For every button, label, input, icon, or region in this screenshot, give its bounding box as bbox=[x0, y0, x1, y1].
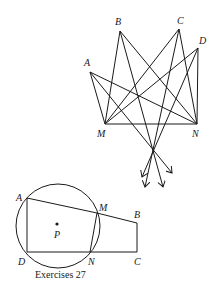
quadrilateral-ABCD bbox=[27, 198, 137, 252]
label-N-bottom: N bbox=[87, 256, 96, 267]
ray-C bbox=[145, 29, 179, 187]
segment-MN-bottom bbox=[90, 213, 97, 252]
segment-ND bbox=[197, 48, 198, 124]
segment-NC bbox=[179, 29, 197, 124]
ray-A bbox=[90, 72, 172, 173]
label-M-top: M bbox=[96, 128, 106, 139]
bottom-figure: A M B C N D P Exercises 27 bbox=[15, 184, 141, 280]
label-D-top: D bbox=[198, 35, 207, 46]
ray-B bbox=[120, 31, 163, 187]
segment-MA bbox=[90, 72, 105, 124]
top-figure: A B C D M N bbox=[83, 15, 207, 187]
label-D-bottom: D bbox=[17, 256, 26, 267]
geometry-diagram: A B C D M N A M B C N D P Exercises 27 bbox=[0, 0, 216, 282]
center-point-P bbox=[55, 222, 58, 225]
label-P: P bbox=[53, 229, 60, 240]
segment-MB bbox=[105, 31, 120, 124]
label-M-bottom: M bbox=[98, 202, 108, 213]
label-A-top: A bbox=[83, 57, 91, 68]
label-B-bottom: B bbox=[134, 209, 140, 220]
figure-caption: Exercises 27 bbox=[35, 269, 86, 280]
label-N-top: N bbox=[191, 128, 200, 139]
label-B-top: B bbox=[115, 16, 121, 27]
label-C-bottom: C bbox=[134, 256, 141, 267]
label-C-top: C bbox=[177, 15, 184, 26]
label-A-bottom: A bbox=[15, 192, 23, 203]
